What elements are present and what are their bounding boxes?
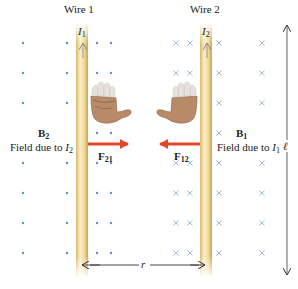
field-cross-icon (216, 220, 221, 225)
field-cross-icon (216, 40, 221, 45)
field-dot-icon (66, 222, 68, 224)
field-dot-icon (96, 222, 98, 224)
current-2-label: I2 (202, 26, 210, 39)
field-dot-icon (66, 72, 68, 74)
field-cross-icon (187, 70, 192, 75)
field-cross-icon (216, 100, 221, 105)
field-dot-icon (96, 132, 98, 134)
field-dot-icon (96, 192, 98, 194)
field-cross-icon (187, 250, 192, 255)
wire-1 (76, 24, 88, 276)
field-b2-description: Field due to I2 (10, 142, 73, 155)
field-dot-icon (66, 102, 68, 104)
field-cross-icon (187, 220, 192, 225)
field-dot-icon (22, 222, 24, 224)
field-dot-icon (96, 72, 98, 74)
field-cross-icon (173, 250, 178, 255)
force-f12-label: F12 (174, 151, 189, 164)
field-cross-icon (216, 190, 221, 195)
field-cross-icon (216, 70, 221, 75)
field-dot-icon (22, 162, 24, 164)
right-hand-icon-wire-1 (91, 82, 131, 123)
field-dot-icon (66, 192, 68, 194)
field-dot-icon (66, 252, 68, 254)
right-hand-icon-wire-2 (157, 82, 197, 123)
field-dot-icon (110, 42, 112, 44)
field-dot-icon (110, 252, 112, 254)
field-dot-icon (22, 72, 24, 74)
field-cross-icon (216, 160, 221, 165)
current-1-label: I1 (78, 26, 86, 39)
field-cross-icon (173, 40, 178, 45)
field-dot-icon (96, 42, 98, 44)
field-cross-icon (259, 100, 264, 105)
field-dot-icon (66, 162, 68, 164)
field-cross-icon (173, 220, 178, 225)
field-cross-icon (259, 70, 264, 75)
field-dot-icon (22, 102, 24, 104)
separation-label: r (141, 259, 145, 270)
field-b2-label: B2 (38, 128, 49, 141)
field-b1-description: Field due to I1 (217, 142, 280, 155)
wire-2-label: Wire 2 (190, 4, 220, 15)
parallel-wires-diagram: Wire 1 Wire 2 I1 I2 B2 Field due to I2 B… (0, 0, 298, 289)
field-cross-icon (259, 40, 264, 45)
field-dot-icon (66, 42, 68, 44)
force-f21-label: F21 (98, 151, 113, 164)
field-cross-icon (259, 160, 264, 165)
wire-2 (200, 24, 212, 276)
field-dot-icon (22, 42, 24, 44)
field-dot-icon (110, 132, 112, 134)
field-cross-icon (216, 250, 221, 255)
field-cross-icon (173, 190, 178, 195)
field-cross-icon (259, 190, 264, 195)
field-dot-icon (22, 192, 24, 194)
field-dot-icon (110, 72, 112, 74)
field-cross-icon (216, 130, 221, 135)
field-cross-icon (259, 250, 264, 255)
field-b1-label: B1 (236, 128, 247, 141)
field-cross-icon (173, 70, 178, 75)
field-cross-icon (259, 220, 264, 225)
field-dot-icon (96, 252, 98, 254)
field-dot-icon (110, 192, 112, 194)
wire-1-label: Wire 1 (64, 4, 94, 15)
field-cross-icon (187, 40, 192, 45)
length-label: ℓ (283, 141, 288, 152)
field-dot-icon (110, 222, 112, 224)
field-dot-icon (22, 252, 24, 254)
field-cross-icon (187, 190, 192, 195)
